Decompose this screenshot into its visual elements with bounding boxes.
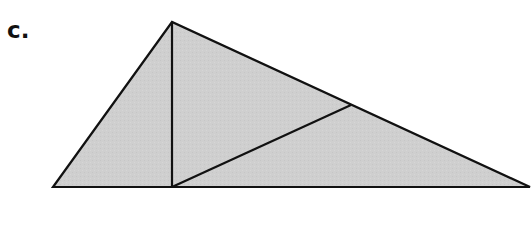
next-figure-label-fragment: -: [20, 233, 28, 238]
outer-triangle: [53, 22, 530, 187]
triangle-diagram: [0, 0, 531, 238]
